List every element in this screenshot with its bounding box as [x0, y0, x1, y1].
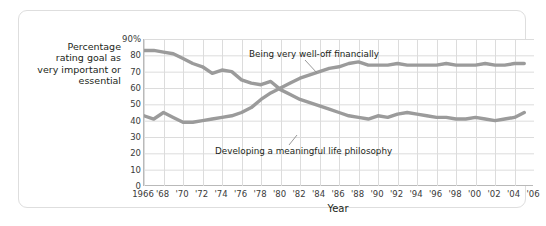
- x-tick-label: '90: [370, 189, 383, 199]
- y-tick-label: 40: [113, 116, 141, 126]
- x-tick-label: '80: [273, 189, 286, 199]
- y-axis-tick-labels: 0102030405060708090%: [111, 39, 141, 186]
- y-tick-label: 60: [113, 83, 141, 93]
- y-tick-label: 10: [113, 165, 141, 175]
- plot-area: [143, 39, 533, 186]
- x-tick-label: '74: [214, 189, 227, 199]
- y-axis-title: Percentage rating goal as very important…: [37, 41, 121, 87]
- series-lines: [144, 39, 534, 186]
- x-axis-tick-labels: 1966'68'70'72'74'76'78'80'82'84'86'88'90…: [143, 189, 535, 203]
- x-tick-label: '68: [156, 189, 169, 199]
- x-tick-label: '70: [175, 189, 188, 199]
- y-tick-label: 50: [113, 99, 141, 109]
- x-tick-label: '84: [312, 189, 325, 199]
- x-tick-label: '94: [409, 189, 422, 199]
- x-tick-label: '98: [448, 189, 461, 199]
- x-tick-label: '96: [429, 189, 442, 199]
- y-tick-label: 70: [113, 67, 141, 77]
- plot-area-wrapper: [143, 39, 533, 186]
- figure-card: Percentage rating goal as very important…: [18, 10, 526, 208]
- x-tick-label: '76: [234, 189, 247, 199]
- series-line-1: [144, 62, 524, 122]
- series-line-0: [144, 50, 524, 120]
- y-tick-label: 30: [113, 132, 141, 142]
- x-tick-label: '86: [331, 189, 344, 199]
- x-tick-label: '82: [292, 189, 305, 199]
- y-tick-label: 90%: [113, 34, 141, 44]
- y-tick-label: 80: [113, 50, 141, 60]
- x-tick-label: '02: [487, 189, 500, 199]
- y-tick-label: 20: [113, 148, 141, 158]
- x-tick-label: '04: [507, 189, 520, 199]
- x-tick-label: '72: [195, 189, 208, 199]
- x-tick-label: '78: [253, 189, 266, 199]
- x-tick-label: 1966: [132, 189, 154, 199]
- x-tick-label: '00: [468, 189, 481, 199]
- x-tick-label: '88: [351, 189, 364, 199]
- x-tick-label: '92: [390, 189, 403, 199]
- series-label-being-very-well-off-financially: Being very well-off financially: [249, 49, 379, 59]
- series-label-developing-a-meaningful-life-philosophy: Developing a meaningful life philosophy: [215, 146, 392, 156]
- x-tick-label: '06: [526, 189, 539, 199]
- x-axis-title: Year: [143, 203, 533, 214]
